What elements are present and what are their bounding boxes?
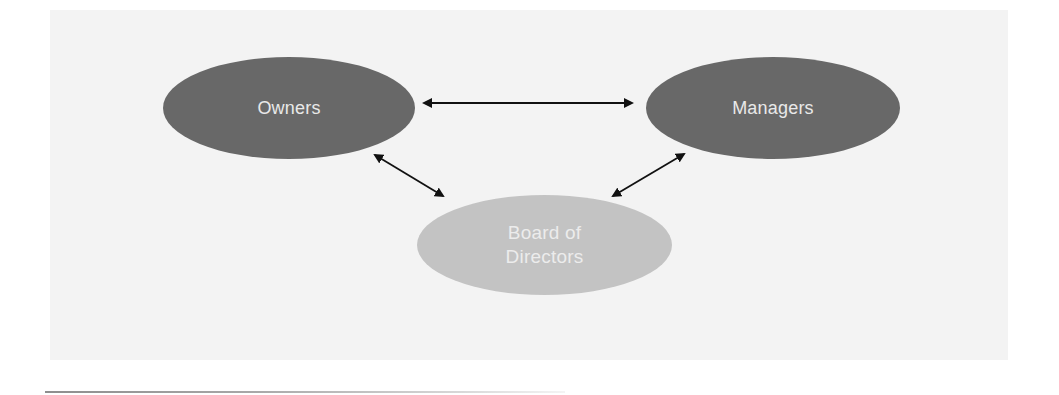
node-managers: Managers <box>646 57 900 159</box>
node-owners: Owners <box>163 57 415 159</box>
diagram-panel <box>50 10 1008 360</box>
node-board-label: Board of Directors <box>506 221 584 269</box>
bottom-divider <box>45 391 565 393</box>
node-board-of-directors: Board of Directors <box>417 195 672 295</box>
node-owners-label: Owners <box>257 97 320 120</box>
node-managers-label: Managers <box>732 97 814 120</box>
